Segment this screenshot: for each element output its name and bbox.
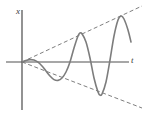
x-axis-label: x [16,7,20,16]
curve-group [22,16,131,95]
lower-envelope-line [22,62,142,108]
t-axis-label: t [131,56,134,65]
plot-canvas [0,0,145,118]
figure-container: x t [0,0,145,118]
envelope-group [22,6,142,108]
oscillation-curve [22,16,131,95]
